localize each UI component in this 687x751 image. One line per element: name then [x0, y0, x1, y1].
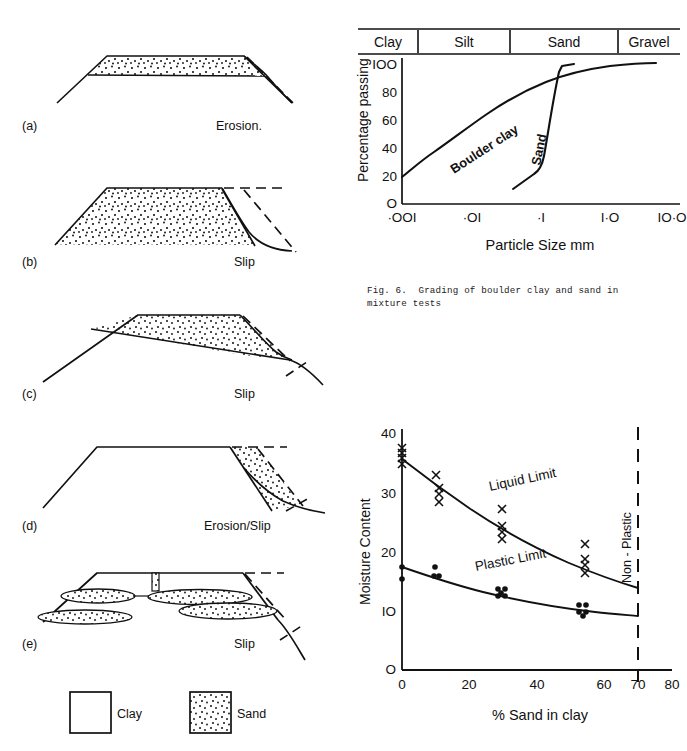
fig6-ytick-100: IOO	[372, 57, 397, 72]
fig7-ytick-20: 20	[381, 545, 396, 560]
fig7-marker-dot	[399, 564, 405, 570]
classification-label-sand: Sand	[548, 34, 581, 50]
fig6-xtick-0001: ·OOI	[387, 210, 416, 225]
embankment-diagram-column: (a) Erosion. (b) Slip	[0, 0, 350, 751]
fig7-marker-x	[498, 535, 506, 543]
fig7-marker-dot	[576, 609, 582, 615]
case-outcome-a: Erosion.	[216, 119, 262, 133]
fig7-xtick-80: 80	[664, 677, 679, 692]
embankment-case-a: (a) Erosion.	[22, 56, 293, 133]
sand-fill-a	[88, 56, 267, 76]
fig6-caption: Fig. 6. Grading of boulder clay and sand…	[367, 285, 667, 310]
fig6-y-ticklabels: IOO 80 60 40 20 O	[372, 57, 397, 211]
fig7-ytick-10: IO	[382, 604, 396, 619]
fig7-x-axis-title: % Sand in clay	[492, 707, 589, 723]
slip-surface-e	[278, 620, 305, 660]
embankment-case-c: (c) Slip	[22, 315, 323, 401]
case-label-a: (a)	[22, 119, 37, 133]
fig6-x-ticklabels: ·OOI ·OI ·I I·O IO·O	[387, 210, 686, 225]
soil-classification-bar: Clay Silt Sand Gravel	[358, 29, 680, 54]
figure-page: (a) Erosion. (b) Slip	[0, 0, 687, 751]
case-label-c: (c)	[22, 387, 37, 401]
sand-fill-c	[93, 315, 288, 360]
embankment-case-d: (d) Erosion/Slip	[22, 447, 325, 533]
classification-label-silt: Silt	[454, 34, 474, 50]
embankment-case-b: (b) Slip	[22, 188, 296, 269]
sand-lens-e-3	[179, 603, 277, 619]
fig7-y-axis-title: Moisture Content	[357, 498, 373, 605]
sand-base-line-a	[88, 75, 267, 76]
fig7-marker-x	[581, 540, 589, 548]
fig6-xtick-001: ·OI	[463, 210, 482, 225]
fig6-axes	[402, 58, 680, 204]
embankment-outline-d	[43, 447, 230, 508]
fig7-annotation-non-plastic: Non - Plastic	[620, 512, 634, 583]
fig7-moisture-chart: 40 30 20 IO O Moisture Content 0 20 40 6…	[350, 415, 687, 735]
fig6-ytick-80: 80	[382, 85, 397, 100]
sand-fill-b	[55, 188, 255, 245]
fig6-x-axis-title: Particle Size mm	[486, 237, 595, 253]
fig7-marker-dot	[436, 573, 442, 579]
embankment-legend: Clay Sand	[70, 692, 266, 733]
fig7-xtick-20: 20	[461, 677, 476, 692]
fig6-grading-chart: Clay Silt Sand Gravel IOO 80 60 40 20 O …	[350, 14, 687, 264]
fig7-ytick-40: 40	[381, 426, 396, 441]
fig7-ytick-30: 30	[381, 486, 396, 501]
sand-feeder-e	[152, 573, 159, 591]
fig6-annotation-boulder-clay: Boulder clay	[447, 121, 521, 176]
fig6-xtick-1: I·O	[601, 210, 620, 225]
sand-lens-e-2	[148, 590, 252, 605]
embankment-case-e: (e) Slip	[22, 573, 305, 660]
fig6-y-axis-title: Percentage passing	[355, 58, 371, 182]
fig7-marker-dot	[498, 590, 504, 596]
legend-swatch-sand	[190, 692, 231, 733]
fig6-xtick-10: IO·O	[657, 210, 686, 225]
fig7-xtick-60: 60	[596, 677, 611, 692]
fig7-annotation-liquid-limit: Liquid Limit	[488, 465, 558, 494]
fig6-svg: Clay Silt Sand Gravel IOO 80 60 40 20 O …	[350, 14, 687, 264]
case-label-b: (b)	[22, 255, 37, 269]
fig6-ytick-20: 20	[382, 169, 397, 184]
slid-mass-profile-c	[290, 360, 323, 385]
fig6-annotation-sand: Sand	[528, 132, 549, 166]
case-outcome-c: Slip	[234, 387, 255, 401]
case-outcome-e: Slip	[234, 637, 255, 651]
fig7-svg: 40 30 20 IO O Moisture Content 0 20 40 6…	[350, 415, 687, 735]
fig7-marker-dot	[502, 586, 508, 592]
fig7-y-ticklabels: 40 30 20 IO O	[381, 426, 396, 677]
fig7-marker-x	[435, 498, 443, 506]
fig6-ytick-0: O	[386, 196, 397, 211]
fig7-ytick-0: O	[385, 662, 396, 677]
fig6-ytick-60: 60	[382, 113, 397, 128]
fig7-marker-x	[435, 490, 443, 498]
fig7-marker-dot	[432, 564, 438, 570]
fig7-marker-x	[581, 561, 589, 569]
classification-label-clay: Clay	[374, 34, 402, 50]
case-label-e: (e)	[22, 637, 37, 651]
fig6-ytick-40: 40	[382, 141, 397, 156]
legend-label-clay: Clay	[117, 707, 143, 721]
fig7-marker-x	[432, 471, 440, 479]
fig7-marker-dot	[583, 602, 589, 608]
sand-lens-e-4	[38, 610, 132, 624]
case-outcome-b: Slip	[234, 255, 255, 269]
fig7-annotation-plastic-limit: Plastic Limit	[474, 545, 548, 574]
fig7-xtick-40: 40	[529, 677, 544, 692]
sand-lens-e-1	[61, 589, 135, 603]
fig7-plastic-limit-markers	[399, 564, 589, 619]
case-label-d: (d)	[22, 519, 37, 533]
legend-swatch-clay	[70, 692, 111, 733]
fig7-marker-dot	[399, 576, 405, 582]
case-outcome-d: Erosion/Slip	[204, 519, 271, 533]
fig7-marker-dot	[576, 602, 582, 608]
fig7-marker-x	[498, 505, 506, 513]
legend-label-sand: Sand	[237, 707, 266, 721]
fig7-xtick-0: 0	[398, 677, 406, 692]
fig6-xtick-01: ·I	[537, 210, 545, 225]
original-toe-dashed-c	[286, 362, 307, 376]
fig7-marker-dot	[431, 573, 437, 579]
fig7-marker-dot	[580, 613, 586, 619]
embankment-diagrams-svg: (a) Erosion. (b) Slip	[0, 0, 350, 751]
classification-label-gravel: Gravel	[628, 34, 669, 50]
